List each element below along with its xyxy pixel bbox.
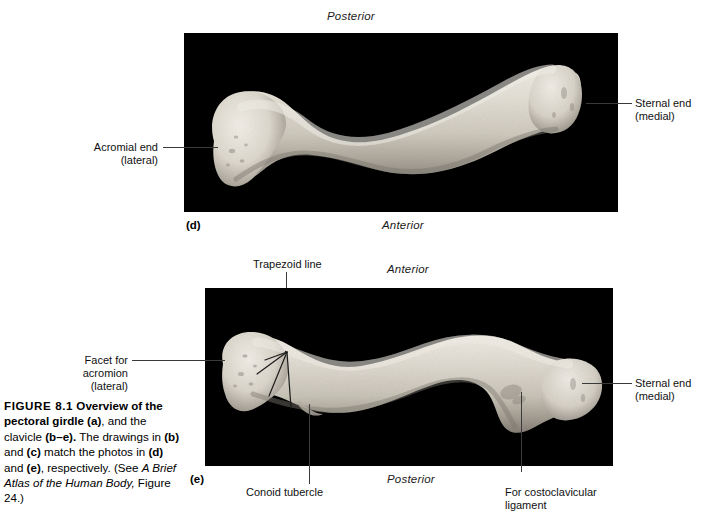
caption-seg-12: and xyxy=(4,461,27,474)
panel-e-orientation-top: Anterior xyxy=(387,263,429,275)
panel-e-costoclavicular-line1: For costoclavicular xyxy=(505,486,597,499)
panel-d-acromial-leader-line xyxy=(163,147,218,148)
figure-caption: FIGURE 8.1 Overview of the pectoral gird… xyxy=(4,398,182,506)
panel-e-sternal-end-label: Sternal end (medial) xyxy=(635,377,691,403)
panel-e-costoclavicular-leader-line xyxy=(521,392,522,472)
panel-e-facet-leader-line xyxy=(132,360,225,361)
caption-seg-6: The drawings in xyxy=(76,430,164,443)
caption-seg-5: (b–e). xyxy=(45,430,76,443)
caption-seg-8: and xyxy=(4,445,27,458)
panel-d-sternal-end-label: Sternal end (medial) xyxy=(635,97,691,123)
panel-e-trapezoid-line-label: Trapezoid line xyxy=(253,258,322,271)
panel-e-sternal-end-line1: Sternal end xyxy=(635,377,691,390)
panel-e-conoid-tubercle-label: Conoid tubercle xyxy=(246,486,323,499)
panel-e-orientation-bottom: Posterior xyxy=(387,473,435,485)
panel-d-photo xyxy=(184,33,618,212)
caption-seg-10: match the photos in xyxy=(41,445,149,458)
panel-d-sternal-end-line2: (medial) xyxy=(635,110,691,123)
panel-e-letter: (e) xyxy=(190,473,204,485)
caption-seg-3: (a) xyxy=(87,414,101,427)
panel-e-facet-line2: acromion xyxy=(38,367,128,380)
panel-e-sternal-end-line2: (medial) xyxy=(635,390,691,403)
clavicle-superior-view-image xyxy=(184,33,618,212)
panel-d-sternal-leader-line xyxy=(586,103,632,104)
panel-e-conoid-leader-line xyxy=(309,404,310,484)
panel-e-facet-line3: (lateral) xyxy=(38,380,128,393)
panel-e-facet-line1: Facet for xyxy=(38,354,128,367)
panel-e-leader-fan xyxy=(205,288,613,466)
caption-seg-7: (b) xyxy=(164,430,179,443)
panel-e-costoclavicular-label: For costoclavicular ligament xyxy=(505,486,597,512)
panel-e-sternal-leader-line xyxy=(582,383,632,384)
caption-seg-11: (d) xyxy=(148,445,163,458)
panel-d-orientation-bottom: Anterior xyxy=(382,219,424,231)
panel-d-acromial-end-line1: Acromial end xyxy=(60,141,158,154)
panel-d-acromial-end-label: Acromial end (lateral) xyxy=(60,141,158,167)
caption-figure-number: FIGURE 8.1 xyxy=(4,399,73,412)
caption-seg-9: (c) xyxy=(27,445,41,458)
panel-e-facet-label: Facet for acromion (lateral) xyxy=(38,354,128,394)
panel-d-orientation-top: Posterior xyxy=(327,10,375,22)
panel-d-letter: (d) xyxy=(186,219,201,231)
panel-d-sternal-end-line1: Sternal end xyxy=(635,97,691,110)
caption-seg-13: (e) xyxy=(27,461,41,474)
panel-d-acromial-end-line2: (lateral) xyxy=(60,154,158,167)
caption-seg-14: , respectively. (See xyxy=(41,461,142,474)
figure-stage: Posterior xyxy=(0,0,717,529)
panel-e-costoclavicular-line2: ligament xyxy=(505,499,597,512)
